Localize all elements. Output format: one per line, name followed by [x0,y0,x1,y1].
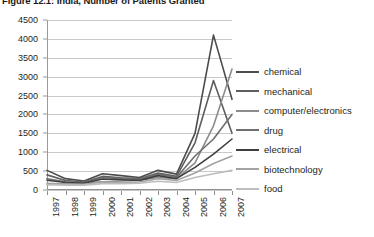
legend-item[interactable]: food [236,179,372,199]
x-axis-tick-mark [140,191,141,195]
x-axis: 1997199819992000200120022003200420052006… [47,191,232,237]
x-axis-tick-label: 2003 [162,197,172,217]
y-axis-tick-label: 2000 [18,109,38,119]
plot-area [47,20,232,190]
y-axis-tick-label: 500 [23,166,38,176]
x-axis-tick-label: 1997 [51,197,61,217]
y-axis-tick-label: 3500 [18,53,38,63]
legend-item[interactable]: mechanical [236,82,372,102]
x-axis-tick-label: 1999 [88,197,98,217]
x-axis-tick-mark [103,191,104,195]
legend-item-label: electrical [264,144,302,155]
x-axis-tick-mark [214,191,215,195]
legend-item[interactable]: electrical [236,140,372,160]
figure-title: Figure 12.1: India, Number of Patents Gr… [2,0,204,6]
series-line [47,114,232,182]
y-axis-tick-label: 1000 [18,147,38,157]
legend-item-label: mechanical [264,86,312,97]
series-line [47,35,232,181]
x-axis-tick-mark [47,191,48,195]
y-axis-tick-label: 2500 [18,91,38,101]
legend-item-label: food [264,183,283,194]
legend-item[interactable]: drug [236,121,372,141]
x-axis-tick-mark [121,191,122,195]
y-axis-tick-label: 1500 [18,128,38,138]
x-axis-tick-mark [177,191,178,195]
series-line [47,80,232,182]
legend-item[interactable]: computer/electronics [236,101,372,121]
legend-item-label: chemical [264,66,302,77]
legend-swatch [236,149,259,151]
legend-item-label: drug [264,125,283,136]
x-axis-tick-label: 2004 [181,197,191,217]
x-axis-tick-label: 2005 [199,197,209,217]
x-axis-tick-mark [195,191,196,195]
x-axis-tick-label: 2007 [236,197,246,217]
legend-item-label: computer/electronics [264,105,352,116]
legend-item-label: biotechnology [264,164,323,175]
y-axis-tick-label: 0 [33,185,38,195]
y-axis-tick-label: 3000 [18,72,38,82]
legend-swatch [236,90,259,92]
legend-swatch [236,188,259,190]
legend-swatch [236,168,259,170]
x-axis-tick-mark [84,191,85,195]
x-axis-tick-label: 2001 [125,197,135,217]
x-axis-tick-mark [232,191,233,195]
legend-swatch [236,129,259,131]
x-axis-tick-mark [158,191,159,195]
figure-root: Figure 12.1: India, Number of Patents Gr… [0,0,374,237]
y-axis-tick-label: 4500 [18,15,38,25]
x-axis-tick-label: 2006 [218,197,228,217]
y-axis: 050010001500200025003000350040004500 [0,20,45,190]
y-axis-tick-label: 4000 [18,34,38,44]
legend-item[interactable]: chemical [236,62,372,82]
x-axis-tick-label: 1998 [70,197,80,217]
chart-legend: chemicalmechanicalcomputer/electronicsdr… [236,62,372,199]
x-axis-tick-mark [66,191,67,195]
legend-swatch [236,110,259,112]
x-axis-tick-label: 2002 [144,197,154,217]
series-lines [47,20,232,190]
x-axis-tick-label: 2000 [107,197,117,217]
legend-swatch [236,71,259,73]
legend-item[interactable]: biotechnology [236,160,372,180]
